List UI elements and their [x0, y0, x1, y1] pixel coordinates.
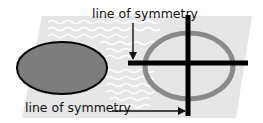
top-symmetry-label: line of symmetry: [92, 6, 199, 21]
bottom-symmetry-label: line of symmetry: [25, 100, 132, 115]
filled-ellipse: [17, 42, 107, 94]
diagram-canvas: line of symmetry line of symmetry: [0, 0, 263, 123]
symmetry-diagram: line of symmetry line of symmetry: [0, 0, 263, 123]
